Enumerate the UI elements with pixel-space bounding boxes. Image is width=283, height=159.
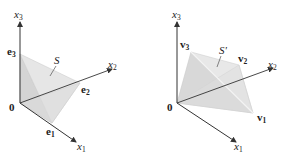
x1-axis-label: x1 [233, 140, 243, 154]
region-s-prime-label: S' [219, 44, 228, 56]
left-panel: x3 x2 x1 S 0 e3 e2 e1 [7, 8, 117, 154]
tetrahedra-figure: x3 x2 x1 S 0 e3 e2 e1 x3 x2 x1 S' 0 v3 v… [0, 0, 283, 159]
e2-label: e2 [81, 83, 90, 97]
region-s-solid [20, 54, 80, 123]
x2-axis-label: x2 [107, 58, 117, 72]
x3-axis-label: x3 [171, 8, 181, 22]
v2-label: v2 [238, 52, 248, 66]
v3-label: v3 [180, 38, 190, 52]
x1-axis-label: x1 [76, 140, 86, 154]
v1-label: v1 [257, 111, 267, 125]
origin-label: 0 [167, 101, 173, 113]
x3-axis-label: x3 [13, 8, 23, 22]
x2-axis-label: x2 [267, 58, 277, 72]
e3-label: e3 [7, 45, 16, 59]
region-s-label: S [54, 54, 60, 66]
e1-label: e1 [46, 125, 55, 139]
right-panel: x3 x2 x1 S' 0 v3 v2 v1 [167, 8, 277, 154]
origin-label: 0 [9, 101, 15, 113]
